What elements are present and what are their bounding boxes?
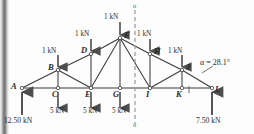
node-label-A: A — [11, 82, 17, 91]
member-B-D — [58, 54, 91, 70]
joint-D — [89, 52, 92, 55]
load-label-G: 5 kN — [112, 108, 126, 115]
joint-L — [210, 86, 213, 89]
node-label-K: K — [176, 90, 182, 99]
joint-F — [118, 36, 121, 39]
member-B-E — [58, 70, 91, 88]
joint-B — [56, 68, 59, 71]
load-label-C: 5 kN — [50, 108, 64, 115]
member-J-L — [182, 70, 212, 88]
load-label-H: 1 kN — [137, 31, 151, 38]
joint-J — [180, 68, 183, 71]
truss-svg — [0, 0, 254, 134]
node-label-E: E — [85, 90, 91, 99]
truss-diagram — [0, 0, 254, 134]
load-label-E: 5 kN — [83, 108, 97, 115]
node-label-J: J — [186, 63, 190, 72]
load-label-J: 1 kN — [168, 48, 182, 55]
reaction-label-A: 12.50 kN — [4, 117, 32, 125]
node-label-C: C — [52, 90, 58, 99]
figure-page: A C E G I K L B D F H J 1 kN 1 kN 1 kN 1… — [0, 0, 254, 134]
section-label-bottom: n — [133, 122, 136, 129]
joint-A — [20, 86, 23, 89]
angle-annotation: α = 28.1° — [200, 59, 230, 67]
member-H-J — [150, 54, 182, 70]
member-A-B — [22, 70, 58, 88]
load-label-D: 1 kN — [75, 31, 89, 38]
load-label-F: 1 kN — [104, 14, 118, 21]
joint-H — [148, 52, 151, 55]
member-I-J — [150, 70, 182, 88]
node-label-L: L — [215, 85, 220, 94]
node-label-F: F — [124, 31, 130, 40]
node-label-B: B — [48, 63, 54, 72]
angle-leader-line — [202, 66, 213, 73]
reaction-label-L: 7.50 kN — [196, 117, 220, 125]
node-label-D: D — [81, 46, 87, 55]
load-label-B: 1 kN — [42, 48, 56, 55]
node-label-I: I — [146, 90, 149, 99]
section-label-top: n — [133, 3, 136, 10]
node-label-G: G — [113, 90, 119, 99]
node-label-H: H — [154, 47, 161, 56]
